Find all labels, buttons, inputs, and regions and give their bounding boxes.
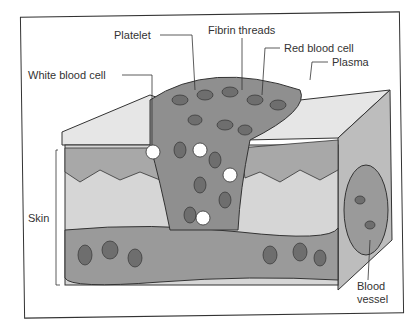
label-red-blood-cell: Red blood cell (284, 42, 354, 54)
label-white-blood-cell: White blood cell (28, 69, 106, 81)
label-fibrin-threads: Fibrin threads (208, 24, 275, 36)
label-skin: Skin (28, 212, 49, 224)
label-blood-vessel-line1: Blood (357, 280, 385, 292)
label-blood-vessel-line2: vessel (357, 293, 388, 305)
label-plasma: Plasma (332, 56, 369, 68)
label-platelet: Platelet (114, 29, 151, 41)
